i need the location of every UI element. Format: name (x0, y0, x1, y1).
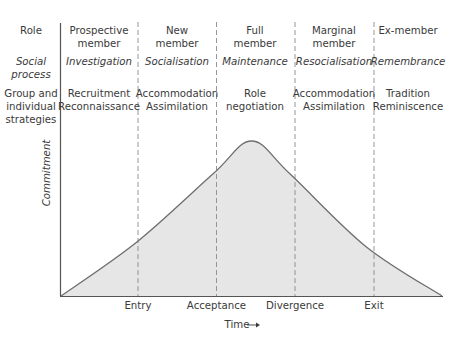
transition-label-exit: Exit (364, 300, 383, 311)
phase-strategy: Reconnaissance (58, 101, 140, 112)
phase-role: Ex-member (378, 25, 438, 36)
phase-role: Prospective (70, 25, 129, 36)
commitment-area (61, 141, 442, 296)
phase-strategy: Role (244, 88, 266, 99)
row-header-strategies: individual (6, 101, 55, 112)
row-header-strategies: Group and (4, 88, 57, 99)
x-axis-label-text: Time (224, 319, 250, 330)
phase-strategy: Accommodation (136, 88, 219, 99)
phase-process: Resocialisation (296, 56, 372, 67)
phase-process: Remembrance (371, 56, 446, 67)
transition-label-acceptance: Acceptance (187, 300, 246, 311)
phase-process: Socialisation (145, 56, 209, 67)
row-headers: Role Social process Group and individual… (4, 25, 57, 125)
phase-role: member (77, 38, 121, 49)
phase-role: member (233, 38, 277, 49)
phase-strategy: Tradition (385, 88, 430, 99)
row-header-social-process: process (10, 69, 51, 80)
phase-strategy: Assimilation (303, 101, 365, 112)
row-header-social-process: Social (16, 56, 46, 67)
phase-strategy: Reminiscence (373, 101, 443, 112)
phase-strategy: Recruitment (68, 88, 131, 99)
transition-label-entry: Entry (124, 300, 151, 311)
row-header-strategies: strategies (6, 114, 57, 125)
row-header-role: Role (20, 25, 42, 36)
phase-role: member (312, 38, 356, 49)
phase-columns: ProspectivememberInvestigationRecruitmen… (58, 25, 445, 112)
transition-labels: EntryAcceptanceDivergenceExit (124, 300, 383, 311)
y-axis-label: Commitment (41, 139, 52, 207)
phase-role: Marginal (312, 25, 356, 36)
phase-role: member (155, 38, 199, 49)
phase-strategy: negotiation (226, 101, 284, 112)
phase-process: Maintenance (222, 56, 288, 67)
transition-label-divergence: Divergence (266, 300, 324, 311)
x-axis-label: Time (224, 319, 250, 330)
phase-role: New (166, 25, 188, 36)
phase-role: Full (246, 25, 263, 36)
group-socialization-diagram: Role Social process Group and individual… (0, 0, 460, 341)
phase-process: Investigation (66, 56, 132, 67)
phase-strategy: Assimilation (146, 101, 208, 112)
phase-strategy: Accommodation (293, 88, 376, 99)
